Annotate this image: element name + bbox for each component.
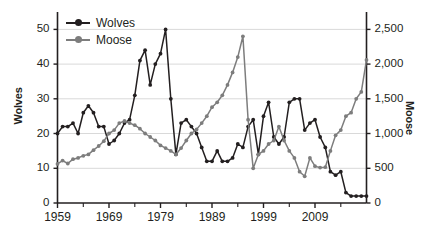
legend-item-wolves: Wolves (66, 14, 135, 31)
y2-tick-label: 2,500 (375, 23, 417, 35)
y2-tick-label: 500 (375, 162, 417, 174)
legend: Wolves Moose (66, 14, 135, 48)
y-tick-label: 30 (16, 93, 50, 105)
x-tick-label: 2009 (292, 211, 338, 223)
y2-tick-label: 0 (375, 197, 417, 209)
legend-item-moose: Moose (66, 31, 135, 48)
legend-swatch-wolves (66, 18, 90, 28)
y2-tick-label: 1,000 (375, 128, 417, 140)
legend-label-moose: Moose (96, 33, 132, 47)
series-wolves (56, 28, 369, 199)
data-series-layer (56, 28, 369, 199)
y-tick-label: 10 (16, 162, 50, 174)
x-tick-label: 1959 (35, 211, 81, 223)
y2-tick-label: 2,000 (375, 58, 417, 70)
x-tick-label: 1989 (189, 211, 235, 223)
x-tick-label: 1979 (138, 211, 184, 223)
wolf-moose-population-chart: Wolves Moose 0102030405005001,0001,5002,… (0, 0, 424, 233)
legend-label-wolves: Wolves (96, 16, 135, 30)
legend-swatch-moose (66, 35, 90, 45)
tick-marks (54, 29, 371, 208)
y-tick-label: 50 (16, 23, 50, 35)
y-tick-label: 0 (16, 197, 50, 209)
series-moose (56, 34, 369, 178)
y-tick-label: 20 (16, 128, 50, 140)
y-tick-label: 40 (16, 58, 50, 70)
plot-area (0, 0, 424, 233)
y2-tick-label: 1,500 (375, 93, 417, 105)
x-tick-label: 1969 (86, 211, 132, 223)
x-tick-label: 1999 (241, 211, 287, 223)
gridlines (58, 29, 367, 168)
